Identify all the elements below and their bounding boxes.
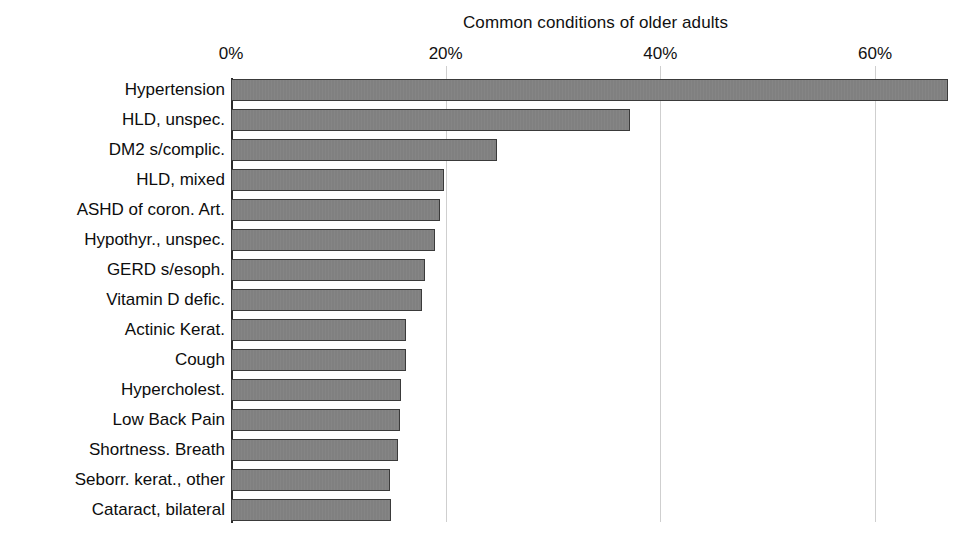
bar xyxy=(231,259,425,281)
category-label: Hypothyr., unspec. xyxy=(0,231,225,249)
category-label: Cough xyxy=(0,351,225,369)
x-tick-label: 40% xyxy=(620,44,700,64)
category-label: Cataract, bilateral xyxy=(0,501,225,519)
bar xyxy=(231,379,401,401)
bar xyxy=(231,319,406,341)
category-label: Hypercholest. xyxy=(0,381,225,399)
bar xyxy=(231,499,391,521)
category-label: Hypertension xyxy=(0,81,225,99)
chart-title-text: Common conditions of older adults xyxy=(463,12,728,34)
gridline-60 xyxy=(875,78,876,522)
plot-area xyxy=(231,78,948,522)
bar xyxy=(231,229,435,251)
gridline-40 xyxy=(660,78,661,522)
tick-mark-40 xyxy=(660,66,661,78)
bar xyxy=(231,109,630,131)
category-label: Seborr. kerat., other xyxy=(0,471,225,489)
bar-chart: Common conditions of older adults 0%20%4… xyxy=(0,0,979,542)
bar xyxy=(231,289,422,311)
y-axis-category-labels: HypertensionHLD, unspec.DM2 s/complic.HL… xyxy=(0,78,225,522)
chart-title: Common conditions of older adults xyxy=(0,12,979,34)
category-label: GERD s/esoph. xyxy=(0,261,225,279)
category-label: Shortness. Breath xyxy=(0,441,225,459)
category-label: Low Back Pain xyxy=(0,411,225,429)
bar xyxy=(231,79,948,101)
bar xyxy=(231,199,440,221)
bar xyxy=(231,409,400,431)
category-label: ASHD of coron. Art. xyxy=(0,201,225,219)
category-label: Actinic Kerat. xyxy=(0,321,225,339)
bar xyxy=(231,139,497,161)
category-label: DM2 s/complic. xyxy=(0,141,225,159)
bar xyxy=(231,169,444,191)
bar xyxy=(231,469,390,491)
bar xyxy=(231,439,398,461)
category-label: HLD, unspec. xyxy=(0,111,225,129)
category-label: HLD, mixed xyxy=(0,171,225,189)
category-label: Vitamin D defic. xyxy=(0,291,225,309)
bar xyxy=(231,349,406,371)
x-tick-label: 60% xyxy=(835,44,915,64)
x-tick-label: 0% xyxy=(191,44,271,64)
tick-mark-60 xyxy=(875,66,876,78)
tick-mark-20 xyxy=(446,66,447,78)
x-tick-label: 20% xyxy=(406,44,486,64)
